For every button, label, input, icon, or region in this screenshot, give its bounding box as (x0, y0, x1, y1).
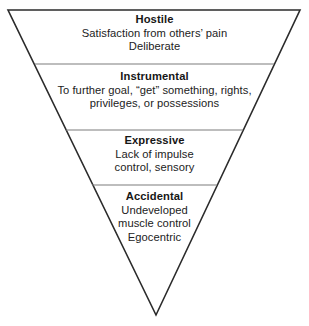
tier-expressive-line-1: Lack of impulse (0, 148, 309, 162)
tier-instrumental: Instrumental To further goal, “get” some… (0, 70, 309, 111)
tier-hostile-line-1: Satisfaction from others’ pain (0, 27, 309, 41)
tier-accidental: Accidental Undeveloped muscle control Eg… (0, 190, 309, 244)
aggression-pyramid-diagram: Hostile Satisfaction from others’ pain D… (0, 0, 309, 326)
tier-hostile: Hostile Satisfaction from others’ pain D… (0, 13, 309, 54)
tier-accidental-line-2: muscle control (0, 217, 309, 231)
tier-expressive-title: Expressive (0, 134, 309, 148)
tier-hostile-line-2: Deliberate (0, 40, 309, 54)
tier-hostile-title: Hostile (0, 13, 309, 27)
tier-accidental-title: Accidental (0, 190, 309, 204)
tier-instrumental-line-1: To further goal, “get” something, rights… (0, 84, 309, 98)
tier-accidental-line-1: Undeveloped (0, 204, 309, 218)
tier-instrumental-title: Instrumental (0, 70, 309, 84)
tier-instrumental-line-2: privileges, or possessions (0, 97, 309, 111)
tier-expressive-line-2: control, sensory (0, 161, 309, 175)
tier-expressive: Expressive Lack of impulse control, sens… (0, 134, 309, 175)
tier-accidental-line-3: Egocentric (0, 231, 309, 245)
